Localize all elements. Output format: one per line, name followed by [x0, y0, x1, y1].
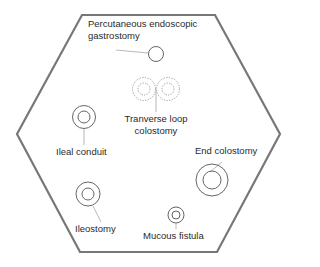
- mucous-fistula-label: Mucous fistula: [143, 230, 204, 241]
- peg-label-line1: Percutaneous endoscopic: [88, 18, 197, 29]
- loop-colostomy-label-line2: colostomy: [116, 125, 196, 136]
- end-colostomy-label: End colostomy: [195, 145, 257, 156]
- transverse-loop-colostomy-icon: [133, 78, 180, 113]
- loop-colostomy-label-line1: Tranverse loop: [116, 113, 196, 124]
- ileostomy-icon: [76, 182, 101, 222]
- peg-label-line2: gastrostomy: [88, 30, 140, 41]
- mucous-fistula-icon: [168, 207, 184, 229]
- ileal-conduit-icon: [73, 106, 96, 146]
- ileostomy-label: Ileostomy: [75, 223, 116, 234]
- ileal-conduit-label: Ileal conduit: [56, 146, 107, 157]
- peg-stoma-icon: [116, 47, 164, 62]
- end-colostomy-icon: [196, 162, 228, 196]
